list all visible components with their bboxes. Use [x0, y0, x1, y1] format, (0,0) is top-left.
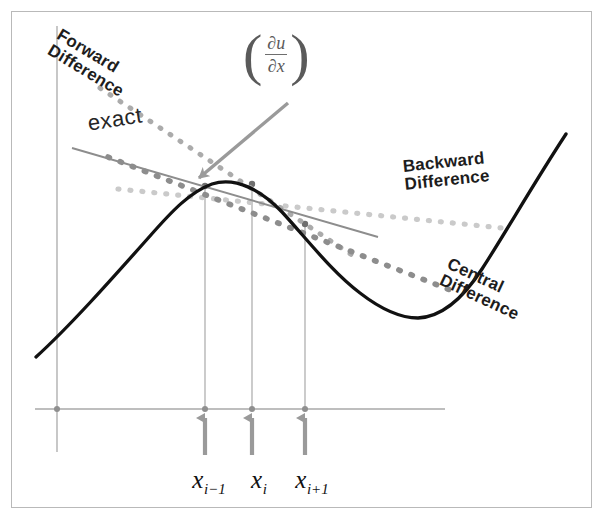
fraction-numerator: ∂u [265, 33, 287, 54]
x-tick-label-i-minus-1: xi−1 [192, 466, 225, 498]
label-partial-derivative: ( ∂u ∂x ) [243, 31, 310, 79]
curve-node-dots [202, 181, 308, 227]
drop-lines [205, 184, 305, 409]
fraction-denominator: ∂x [266, 55, 287, 76]
x-tick-sub-0: i−1 [203, 481, 225, 497]
partial-derivative-fraction: ∂u ∂x [262, 33, 290, 76]
x-tick-base-1: x [251, 466, 262, 493]
right-paren: ) [290, 31, 309, 79]
exact-tangent-line [72, 148, 378, 237]
left-paren: ( [243, 31, 262, 79]
figure-root: Forward Difference Backward Difference C… [0, 0, 610, 524]
derivative-annotation-arrow [199, 103, 288, 178]
x-tick-label-i: xi [251, 466, 267, 498]
x-tick-label-i-plus-1: xi+1 [295, 466, 328, 498]
sample-point-arrows [205, 418, 305, 455]
x-tick-base-2: x [295, 466, 306, 493]
x-tick-base-0: x [192, 466, 203, 493]
x-tick-sub-1: i [262, 481, 267, 497]
x-tick-sub-2: i+1 [306, 481, 328, 497]
